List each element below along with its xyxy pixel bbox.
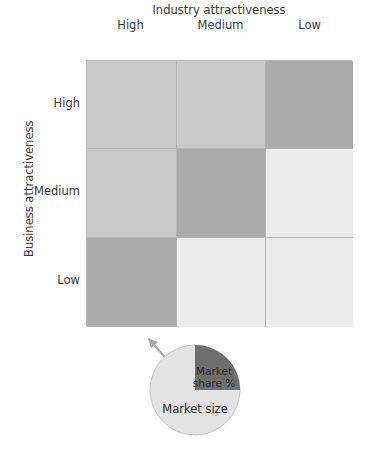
market-share-label-1: Market <box>196 365 232 377</box>
col-label-medium: Medium <box>176 18 265 32</box>
arrow-icon <box>148 338 166 358</box>
row-label-high: High <box>20 96 80 110</box>
matrix-cell-low-medium <box>177 238 266 327</box>
matrix-grid <box>86 60 352 326</box>
market-pie-chart: Market share % Market size <box>130 330 260 452</box>
matrix-cell-low-low <box>266 238 353 327</box>
matrix-cell-high-medium <box>177 61 266 149</box>
col-label-high: High <box>86 18 175 32</box>
row-label-medium: Medium <box>20 184 80 198</box>
x-axis-title: Industry attractiveness <box>86 3 352 17</box>
matrix-cell-high-high <box>87 61 177 149</box>
market-share-label-2: share % <box>193 377 235 389</box>
row-label-low: Low <box>20 273 80 287</box>
matrix-cell-medium-high <box>87 149 177 238</box>
matrix-cell-medium-medium <box>177 149 266 238</box>
col-label-low: Low <box>265 18 354 32</box>
matrix-cell-high-low <box>266 61 353 149</box>
market-size-label: Market size <box>162 402 228 416</box>
matrix-cell-low-high <box>87 238 177 327</box>
matrix-cell-medium-low <box>266 149 353 238</box>
